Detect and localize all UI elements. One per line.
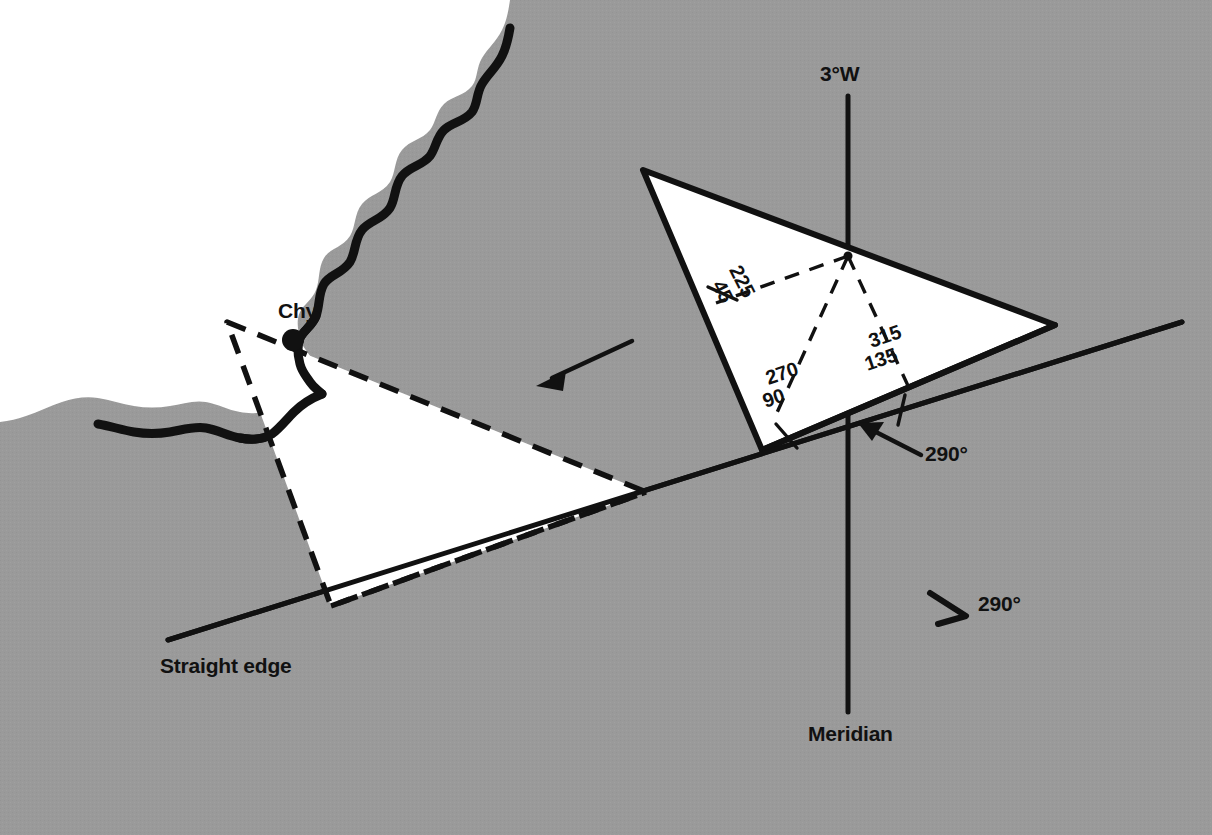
bearing-on-edge-label: 290° — [925, 443, 968, 466]
diagram-svg — [0, 0, 1212, 835]
navigation-diagram-canvas: 3°W Chy Straight edge Meridian 290° 290°… — [0, 0, 1212, 835]
chimney-label: Chy — [278, 300, 317, 323]
protractor-centre-point — [844, 252, 853, 261]
meridian-label: Meridian — [808, 723, 893, 746]
bearing-direction-label: 290° — [978, 593, 1021, 616]
chimney-marker-icon[interactable] — [282, 329, 304, 351]
land-mass — [0, 0, 1212, 835]
straight-edge-label: Straight edge — [160, 655, 292, 678]
magnetic-variation-label: 3°W — [820, 63, 859, 86]
